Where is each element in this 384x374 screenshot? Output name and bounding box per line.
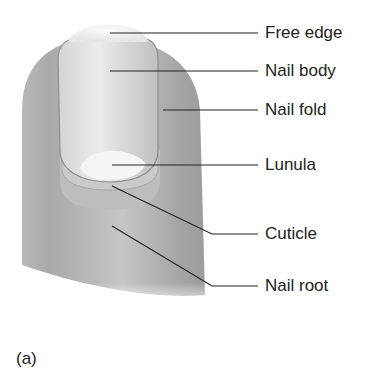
label-nail-body: Nail body: [265, 62, 336, 79]
label-nail-fold: Nail fold: [265, 101, 326, 118]
label-cuticle: Cuticle: [265, 225, 317, 242]
panel-label: (a): [16, 350, 37, 367]
label-free-edge: Free edge: [265, 24, 343, 41]
label-lunula: Lunula: [265, 156, 316, 173]
label-nail-root: Nail root: [265, 277, 328, 294]
fingernail-illustration: [0, 0, 384, 374]
